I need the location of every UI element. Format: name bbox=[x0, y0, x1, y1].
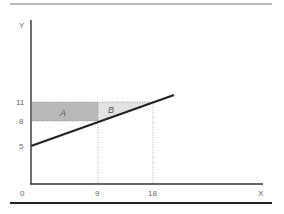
region-b-label: B bbox=[108, 105, 114, 115]
region-a-label: A bbox=[59, 108, 66, 118]
y-axis-label: Y bbox=[19, 21, 25, 30]
y-tick-5: 5 bbox=[19, 142, 24, 151]
x-tick-9: 9 bbox=[95, 189, 100, 198]
x-axis-label: X bbox=[258, 189, 264, 198]
x-tick-18: 18 bbox=[148, 189, 157, 198]
origin-label: 0 bbox=[20, 189, 25, 198]
diagram-canvas: Y X 0 9 18 5 8 11 A B bbox=[0, 0, 284, 214]
y-tick-8: 8 bbox=[19, 117, 24, 126]
y-tick-11: 11 bbox=[16, 98, 25, 107]
